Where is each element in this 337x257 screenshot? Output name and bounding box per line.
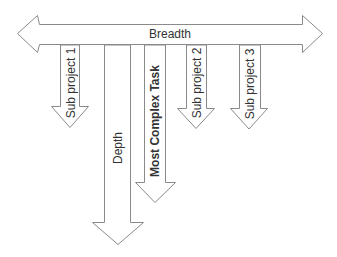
diagram-canvas: Sub project 1 Depth Most Complex Task Su… — [0, 0, 337, 257]
arrow-sub-project-1: Sub project 1 — [52, 45, 89, 128]
arrow-most-complex-task: Most Complex Task — [136, 45, 176, 203]
label-most-complex-task: Most Complex Task — [148, 65, 162, 177]
label-sub-project-1: Sub project 1 — [64, 47, 78, 118]
label-depth: Depth — [111, 132, 125, 164]
label-sub-project-2: Sub project 2 — [190, 47, 204, 118]
label-breadth: Breadth — [149, 27, 191, 41]
label-sub-project-3: Sub project 3 — [243, 48, 257, 119]
arrow-sub-project-2: Sub project 2 — [178, 45, 215, 129]
arrow-depth: Depth — [93, 45, 144, 245]
arrow-sub-project-3: Sub project 3 — [231, 45, 268, 129]
